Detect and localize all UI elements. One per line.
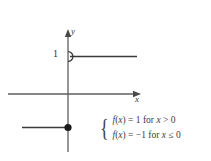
eq2-condition-word: for [148,130,159,140]
series-negative-branch [22,124,72,131]
equation-lines: f(x) = 1 for x > 0 f(x) = −1 for x ≤ 0 [112,113,180,143]
eq1-value: 1 [136,115,141,125]
piecewise-definition-annotation: { f(x) = 1 for x > 0 f(x) = −1 for x ≤ 0 [100,113,181,143]
eq1-equals-sign: = [128,115,133,125]
eq1-condition-relation: > [163,115,168,125]
curly-brace-icon: { [100,113,109,143]
equation-line-1: f(x) = 1 for x > 0 [112,113,180,128]
series-positive-branch [68,52,137,62]
eq2-paren-close: ) [123,130,126,140]
eq1-condition-word: for [143,115,154,125]
x-axis-label: x [135,95,139,104]
eq1-condition-value: 0 [171,115,176,125]
eq2-condition-value: 0 [176,130,181,140]
y-axis [65,29,71,152]
eq2-condition-variable: x [162,130,166,140]
function-graph-figure: y x 1 { f(x) = 1 for x > 0 f(x) = −1 for… [0,0,211,161]
equation-line-2: f(x) = −1 for x ≤ 0 [112,128,180,143]
eq2-value: −1 [136,130,146,140]
x-axis [8,91,141,97]
eq1-paren-close: ) [123,115,126,125]
y-axis-label: y [71,27,75,36]
eq1-condition-variable: x [156,115,160,125]
y-tick-label-1: 1 [53,49,58,59]
eq2-equals-sign: = [128,130,133,140]
closed-circle-marker-icon [64,124,71,131]
eq2-condition-relation: ≤ [168,130,173,140]
